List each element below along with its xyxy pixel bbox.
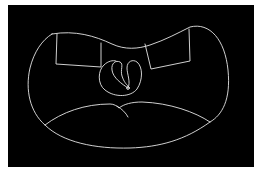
figure-panel — [8, 5, 254, 167]
central-loop — [99, 61, 141, 96]
right-rectangle — [145, 29, 190, 69]
left-rectangle — [56, 34, 101, 67]
lower-curve — [45, 102, 210, 125]
figure-caption — [8, 169, 254, 176]
line-drawing — [8, 5, 254, 167]
